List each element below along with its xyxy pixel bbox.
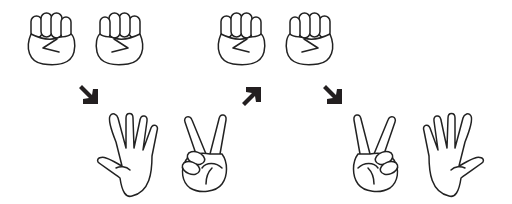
open-hand-icon xyxy=(418,112,488,202)
fist-icon xyxy=(217,12,269,68)
arrow-down-right-icon xyxy=(79,85,101,107)
v-sign-hand-icon xyxy=(350,112,406,198)
fist-icon xyxy=(284,12,336,68)
fist-icon xyxy=(27,12,79,68)
v-sign-hand-icon xyxy=(176,112,232,198)
arrow-up-right-icon xyxy=(242,84,264,106)
arrow-down-right-icon xyxy=(323,85,345,107)
fist-icon xyxy=(94,12,146,68)
open-hand-icon xyxy=(98,112,162,202)
